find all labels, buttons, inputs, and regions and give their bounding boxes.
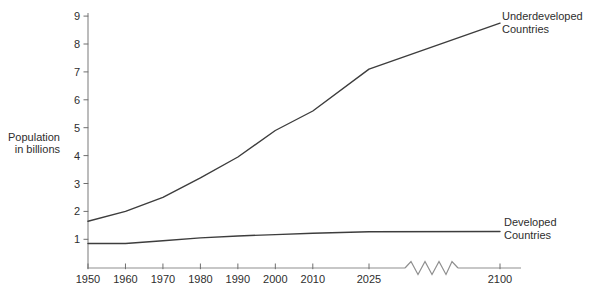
y-tick-label-4: 4 — [64, 150, 80, 162]
y-tick-label-1: 1 — [64, 233, 80, 245]
series-label-developed-countries: Developed Countries — [504, 216, 557, 242]
y-tick-label-9: 9 — [64, 10, 80, 22]
x-tick-label-2000: 2000 — [255, 273, 295, 285]
y-tick-label-5: 5 — [64, 122, 80, 134]
y-tick-label-8: 8 — [64, 38, 80, 50]
y-tick-label-2: 2 — [64, 205, 80, 217]
series-line-developed-countries — [88, 232, 500, 244]
x-tick-label-2100: 2100 — [480, 273, 520, 285]
x-tick-label-1980: 1980 — [180, 273, 220, 285]
y-tick-label-7: 7 — [64, 66, 80, 78]
x-tick-label-1960: 1960 — [105, 273, 145, 285]
x-tick-label-2010: 2010 — [293, 273, 333, 285]
y-tick-label-6: 6 — [64, 94, 80, 106]
y-tick-label-3: 3 — [64, 178, 80, 190]
x-tick-label-1950: 1950 — [68, 273, 108, 285]
chart-canvas — [0, 0, 593, 301]
series-label-underdeveloped-countries: Underdeveloped Countries — [502, 10, 583, 36]
series-line-underdeveloped-countries — [88, 23, 500, 221]
x-tick-label-1990: 1990 — [218, 273, 258, 285]
x-tick-label-1970: 1970 — [143, 273, 183, 285]
population-growth-chart: Population in billions Underdeveloped Co… — [0, 0, 593, 301]
x-axis-break-zigzag — [405, 262, 458, 275]
x-tick-label-2025: 2025 — [349, 273, 389, 285]
y-axis-title: Population in billions — [0, 131, 60, 155]
